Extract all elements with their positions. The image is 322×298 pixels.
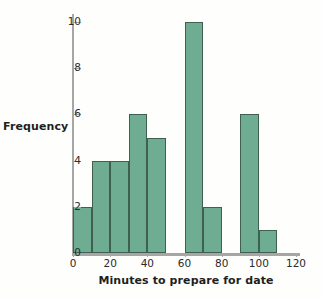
- x-axis-tick-label: 0: [53, 258, 93, 269]
- histogram-chart: 0246810 020406080100120 Frequency Minute…: [0, 0, 322, 298]
- y-axis-tick-label: 10: [59, 16, 81, 27]
- x-axis-tick-label: 20: [90, 258, 130, 269]
- histogram-bar: [259, 230, 278, 253]
- histogram-bar: [147, 138, 166, 254]
- y-axis-tick-label: 0: [59, 247, 81, 258]
- x-axis-line: [72, 253, 300, 256]
- histogram-bar: [129, 114, 148, 253]
- histogram-bar: [185, 22, 204, 253]
- histogram-bar: [92, 161, 111, 253]
- y-axis-tick-label: 2: [59, 201, 81, 212]
- histogram-bar: [110, 161, 129, 253]
- y-axis-tick-label: 8: [59, 62, 81, 73]
- y-axis-tick-label: 6: [59, 108, 81, 119]
- x-axis-tick-label: 100: [239, 258, 279, 269]
- x-axis-tick-label: 60: [165, 258, 205, 269]
- plot-area: 0246810 020406080100120: [0, 0, 322, 298]
- histogram-bar: [240, 114, 259, 253]
- x-axis-tick-label: 120: [276, 258, 316, 269]
- x-axis-tick-label: 80: [202, 258, 242, 269]
- x-axis-title: Minutes to prepare for date: [72, 274, 300, 287]
- x-axis-tick-label: 40: [127, 258, 167, 269]
- histogram-bar: [203, 207, 222, 253]
- y-axis-tick-label: 4: [59, 155, 81, 166]
- y-axis-title: Frequency: [3, 120, 68, 133]
